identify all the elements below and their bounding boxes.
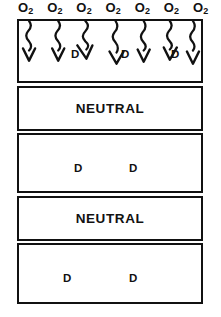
oxygen-label: O2 xyxy=(47,1,62,18)
d-marker: D xyxy=(121,49,129,61)
diagram-canvas: O2 O2 O2 O2 O2 O2 O2 xyxy=(0,0,221,317)
d-marker: D xyxy=(171,49,179,61)
oxygen-label-row: O2 O2 O2 O2 O2 O2 O2 xyxy=(18,1,208,20)
band-label-neutral: NEUTRAL xyxy=(76,211,145,226)
oxygen-label: O2 xyxy=(18,1,33,18)
oxygen-symbol: O xyxy=(105,0,115,15)
oxygen-symbol: O xyxy=(193,0,203,15)
d-marker: D xyxy=(129,273,137,285)
oxygen-symbol: O xyxy=(135,0,145,15)
oxygen-subscript: 2 xyxy=(87,6,92,16)
band-row: NEUTRAL xyxy=(17,86,203,131)
oxygen-subscript: 2 xyxy=(28,6,33,16)
oxygen-subscript: 2 xyxy=(57,6,62,16)
oxygen-symbol: O xyxy=(76,0,86,15)
band-row: D D xyxy=(17,133,203,193)
d-marker: D xyxy=(129,163,137,175)
band-label-neutral: NEUTRAL xyxy=(76,101,145,116)
oxygen-symbol: O xyxy=(47,0,57,15)
oxygen-subscript: 2 xyxy=(145,6,150,16)
oxygen-subscript: 2 xyxy=(174,6,179,16)
oxygen-label: O2 xyxy=(193,1,208,18)
oxygen-label: O2 xyxy=(105,1,120,18)
oxygen-subscript: 2 xyxy=(116,6,121,16)
band-row: D D xyxy=(17,243,203,304)
oxygen-subscript: 2 xyxy=(203,6,208,16)
oxygen-symbol: O xyxy=(164,0,174,15)
oxygen-label: O2 xyxy=(76,1,91,18)
band-row: NEUTRAL xyxy=(17,196,203,241)
oxygen-label: O2 xyxy=(135,1,150,18)
band-row: D D D xyxy=(17,19,203,83)
d-marker: D xyxy=(63,273,71,285)
d-marker: D xyxy=(74,163,82,175)
oxygen-label: O2 xyxy=(164,1,179,18)
band-stack: D D D NEUTRAL D D NEUTRAL D D xyxy=(17,19,203,309)
oxygen-symbol: O xyxy=(18,0,28,15)
d-marker: D xyxy=(71,49,79,61)
